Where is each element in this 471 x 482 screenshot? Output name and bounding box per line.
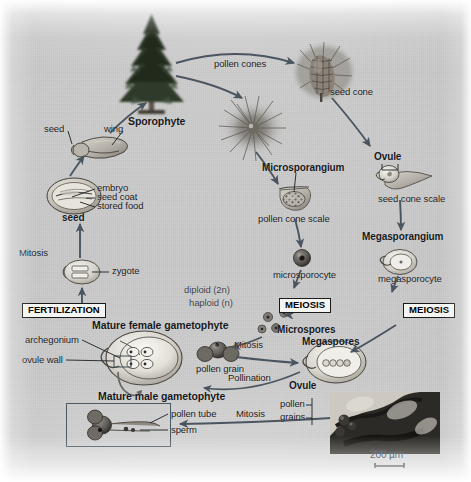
megasporangium-illustration (380, 250, 417, 275)
label-scale-bar: 200 µm (370, 450, 403, 461)
label-ovule-wall: ovule wall (22, 355, 63, 365)
stage-box-meiosis-male: MEIOSIS (279, 298, 331, 313)
label-megaspores: Megaspores (302, 337, 359, 348)
label-ovule-bottom: Ovule (289, 381, 316, 392)
mature-female-gametophyte-illustration (101, 331, 182, 395)
label-ovule-top: Ovule (374, 152, 401, 163)
label-seed-winged: seed (44, 124, 64, 134)
label-zygote: zygote (112, 266, 139, 276)
label-stored-food: stored food (97, 201, 143, 211)
pollen-cone-scale-illustration (279, 187, 311, 211)
label-wing: wing (104, 124, 123, 134)
label-archegonium: archegonium (25, 335, 79, 345)
sporophyte-tree-illustration (119, 14, 184, 114)
pollen-micrograph (330, 392, 440, 454)
label-mitosis-left: Mitosis (19, 248, 48, 258)
seed-cone-scale-illustration (376, 166, 432, 190)
label-megasporocyte: megasporocyte (378, 274, 442, 284)
label-pollen-grains-line1: pollen (280, 399, 305, 409)
stage-box-meiosis-female: MEIOSIS (403, 303, 455, 318)
label-megasporangium: Megasporangium (362, 232, 443, 243)
label-seed-cone-scale: seed cone scale (378, 194, 445, 204)
mature-male-gametophyte-frame (66, 403, 171, 447)
microsporocyte-illustration (294, 250, 311, 267)
label-pollination: Pollination (228, 373, 271, 383)
label-pollen-grains-line2: grains (280, 412, 305, 422)
scale-bar (375, 463, 404, 468)
legend-diploid: diploid (2n) (184, 285, 230, 295)
label-pollen-cones: pollen cones (214, 59, 266, 69)
figure-canvas: Sporophyte seed wing embryo seed coat st… (0, 0, 471, 482)
label-microspores: Microspores (277, 325, 335, 336)
label-microsporocyte: microsporocyte (273, 270, 336, 280)
label-seed: seed (62, 213, 84, 224)
label-pollen-cone-scale: pollen cone scale (258, 214, 330, 224)
stage-box-fertilization: FERTILIZATION (22, 303, 106, 318)
pollen-cones-illustration (219, 96, 286, 161)
label-pollen-tube: pollen tube (171, 409, 216, 419)
label-mature-female-gametophyte: Mature female gametophyte (92, 320, 228, 331)
label-microsporangium: Microsporangium (262, 163, 344, 174)
leader-lines (66, 131, 398, 430)
label-sperm: sperm (171, 425, 197, 435)
pollen-grain-illustration (197, 342, 239, 362)
label-seed-cone: seed cone (330, 87, 373, 97)
label-mitosis-center: Mitosis (234, 340, 263, 350)
winged-seed-illustration (72, 137, 128, 158)
legend-haploid: haploid (n) (189, 298, 233, 308)
label-mature-male-gametophyte: Mature male gametophyte (98, 391, 225, 402)
label-mitosis-bottom: Mitosis (236, 409, 265, 419)
label-sporophyte: Sporophyte (128, 116, 185, 127)
